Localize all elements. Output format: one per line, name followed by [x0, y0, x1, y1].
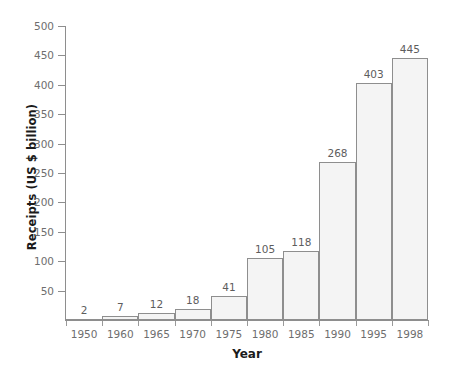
- x-axis-tick: [319, 321, 320, 326]
- y-axis-tick: [58, 261, 65, 262]
- bar: [66, 319, 102, 321]
- x-axis-tick: [247, 321, 248, 326]
- y-axis-tick-label: 150: [14, 227, 54, 238]
- bar: [283, 251, 319, 320]
- bar: [102, 316, 138, 320]
- x-axis-tick: [66, 321, 67, 326]
- x-axis-tick: [392, 321, 393, 326]
- x-axis-tick: [283, 321, 284, 326]
- y-axis-tick-label: 450: [14, 50, 54, 61]
- y-axis-tick: [58, 173, 65, 174]
- bar: [392, 58, 428, 320]
- x-axis-tick: [138, 321, 139, 326]
- x-axis-tick: [428, 321, 429, 326]
- y-axis-tick: [58, 114, 65, 115]
- y-axis-tick-label: 100: [14, 256, 54, 267]
- bar: [356, 83, 392, 320]
- bar: [175, 309, 211, 320]
- bar: [138, 313, 174, 320]
- y-axis-tick-label: 50: [14, 286, 54, 297]
- y-axis-tick: [58, 144, 65, 145]
- y-axis-tick-label: 300: [14, 139, 54, 150]
- y-axis-tick: [58, 55, 65, 56]
- x-axis-tick: [356, 321, 357, 326]
- y-axis-tick: [58, 26, 65, 27]
- y-axis-tick-label: 250: [14, 168, 54, 179]
- y-axis-tick: [58, 232, 65, 233]
- x-axis-tick: [211, 321, 212, 326]
- y-axis-tick-label: 200: [14, 197, 54, 208]
- y-axis-tick-label: 400: [14, 80, 54, 91]
- y-axis-tick: [58, 202, 65, 203]
- bar: [211, 296, 247, 320]
- y-axis-tick-label: 350: [14, 109, 54, 120]
- bar: [319, 162, 355, 320]
- y-axis-line: [65, 26, 66, 321]
- bar: [247, 258, 283, 320]
- bar-value-label: 445: [380, 44, 440, 55]
- y-axis-tick: [58, 291, 65, 292]
- y-axis-tick-label: 500: [14, 21, 54, 32]
- x-axis-tick: [102, 321, 103, 326]
- bar-chart: Receipts (US $ billion) 5010015020025030…: [0, 0, 457, 371]
- y-axis-tick: [58, 85, 65, 86]
- x-axis-title: Year: [66, 347, 428, 361]
- x-axis-tick: [175, 321, 176, 326]
- x-axis-tick-label: 1998: [380, 329, 440, 340]
